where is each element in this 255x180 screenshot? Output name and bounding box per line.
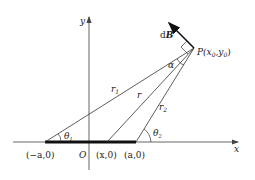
theta2-arc: [144, 129, 151, 142]
dB-label: dB: [160, 30, 174, 40]
theta2-label: θ2: [153, 128, 162, 139]
y-axis-label: y: [79, 16, 86, 26]
r2-label: r2: [159, 102, 167, 113]
left-end-label: (−a,0): [26, 150, 55, 160]
theta1-label: θ1: [64, 131, 73, 142]
point-P-label: P(x0,y0): [196, 47, 231, 58]
source-point-label: (x,0): [96, 150, 117, 160]
origin-label: O: [79, 150, 87, 160]
r2-line: [136, 48, 194, 142]
r1-label: r1: [111, 84, 119, 95]
right-end-label: (a,0): [124, 150, 145, 160]
biot-savart-diagram: y x O (−a,0) (x,0) (a,0) P(x0,y0) dB r1 …: [0, 0, 255, 180]
x-axis-label: x: [234, 144, 239, 154]
r-label: r: [137, 90, 142, 100]
alpha-label: α: [168, 60, 174, 70]
